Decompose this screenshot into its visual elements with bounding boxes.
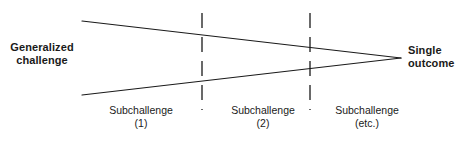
stage-2-name: Subchallenge	[208, 104, 318, 117]
stage-3-index: (etc.)	[312, 117, 422, 130]
generalized-challenge-label: Generalized challenge	[8, 41, 76, 67]
generalized-challenge-line-2: challenge	[16, 54, 68, 66]
stage-1-name: Subchallenge	[86, 104, 196, 117]
stage-label-3: Subchallenge (etc.)	[312, 104, 422, 130]
stage-label-1: Subchallenge (1)	[86, 104, 196, 130]
generalized-challenge-line-1: Generalized	[10, 41, 73, 53]
single-outcome-label: Single outcome	[408, 44, 455, 70]
stage-1-index: (1)	[86, 117, 196, 130]
single-outcome-line-2: outcome	[408, 57, 455, 69]
stage-3-name: Subchallenge	[312, 104, 422, 117]
stage-2-index: (2)	[208, 117, 318, 130]
stage-label-2: Subchallenge (2)	[208, 104, 318, 130]
funnel-lower-line	[82, 58, 401, 95]
single-outcome-line-1: Single	[408, 44, 442, 56]
funnel-upper-line	[82, 21, 401, 58]
funnel-diagram: Generalized challenge Single outcome Sub…	[0, 0, 462, 143]
